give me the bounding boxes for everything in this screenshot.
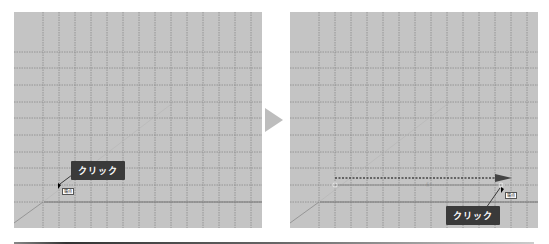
direction-arrowhead-icon <box>495 174 512 182</box>
cursor-icon <box>501 187 504 193</box>
perspective-edge <box>14 202 43 223</box>
cursor-icon <box>58 183 61 189</box>
click-callout: クリック <box>446 206 500 225</box>
grid-lines <box>290 12 538 228</box>
callout-leader <box>486 188 500 208</box>
next-step-arrow-icon <box>265 108 283 132</box>
endpoint-tag: 端点 <box>62 188 74 195</box>
click-callout: クリック <box>71 161 125 180</box>
canvas-panel-after[interactable]: 長さ クリック 端点 <box>290 12 538 228</box>
endpoint-tag: 端点 <box>505 192 517 199</box>
canvas-panel-before[interactable]: クリック 端点 <box>14 12 262 228</box>
grid-lines <box>14 12 262 228</box>
dimension-label: 長さ <box>426 183 432 187</box>
